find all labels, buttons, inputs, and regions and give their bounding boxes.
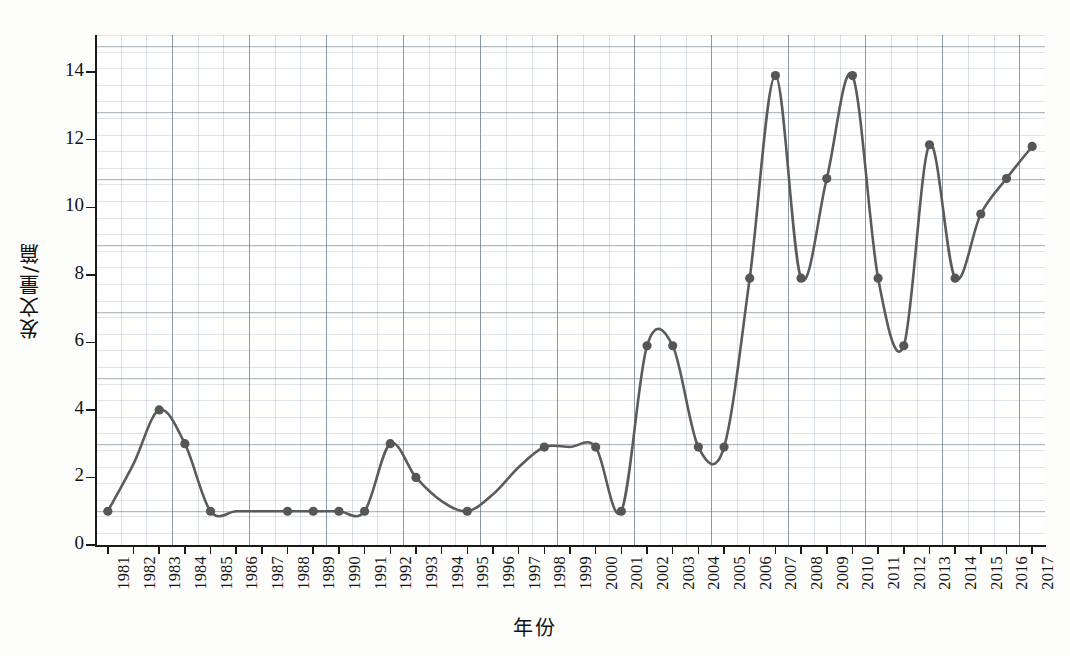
x-axis-tick [980,545,982,554]
x-axis-tick-label: 1984 [191,556,211,590]
x-axis-tick-label: 1998 [550,556,570,590]
data-point-marker [591,442,600,451]
x-axis-tick [518,545,520,554]
x-axis-tick-label: 1991 [371,556,391,590]
x-axis-tick [184,545,186,554]
x-axis-tick-label: 1997 [525,556,545,590]
x-axis-tick [390,545,392,554]
x-axis-tick [158,545,160,554]
y-axis-tick [86,342,96,344]
x-axis-tick [441,545,443,554]
y-axis-tick-label: 0 [0,532,84,554]
data-point-marker [976,209,985,218]
x-axis-tick [595,545,597,554]
x-axis-tick-label: 2012 [910,556,930,590]
y-axis-tick [86,139,96,141]
x-axis-tick-label: 2008 [807,556,827,590]
x-axis-tick-label: 1985 [217,556,237,590]
x-axis-tick-label: 2015 [987,556,1007,590]
y-axis-tick-label: 12 [0,127,84,149]
x-axis-tick [646,545,648,554]
y-axis-tick [86,71,96,73]
data-point-marker [719,442,728,451]
x-axis-tick [467,545,469,554]
x-axis-tick-label: 2001 [627,556,647,590]
x-axis-tick [749,545,751,554]
data-point-marker [360,507,369,516]
y-axis-tick-label: 10 [0,194,84,216]
x-axis-tick-label: 1993 [422,556,442,590]
x-axis-tick [235,545,237,554]
data-point-marker [694,442,703,451]
x-axis-tick-label: 2010 [858,556,878,590]
x-axis-tick-label: 2017 [1038,556,1058,590]
x-axis-tick-label: 2011 [884,556,904,589]
x-axis-tick [852,545,854,554]
data-point-marker [899,341,908,350]
data-point-marker [283,507,292,516]
x-axis-tick-label: 1986 [242,556,262,590]
x-axis-tick-label: 1994 [448,556,468,590]
y-axis-tick [86,544,96,546]
y-axis-tick [86,274,96,276]
plot-area [95,35,1045,545]
x-axis-tick [954,545,956,554]
data-point-marker [822,174,831,183]
x-axis-tick [492,545,494,554]
y-axis-tick [86,409,96,411]
x-axis-tick-label: 2014 [961,556,981,590]
y-axis-title: 发文量/篇 [14,0,44,580]
x-axis-tick [210,545,212,554]
x-axis-tick [1031,545,1033,554]
x-axis-tick-label: 1992 [396,556,416,590]
x-axis-tick [1006,545,1008,554]
x-axis-tick-label: 1996 [499,556,519,590]
x-axis-tick [544,545,546,554]
x-axis-tick [698,545,700,554]
data-point-marker [1028,142,1037,151]
data-point-marker [206,507,215,516]
chart-figure: 发文量/篇 02468101214 1981198219831984198519… [0,0,1070,656]
data-point-marker [1002,174,1011,183]
y-axis-line [95,35,97,547]
x-axis-tick [569,545,571,554]
y-axis-tick-label: 6 [0,329,84,351]
x-axis-tick-label: 2009 [833,556,853,590]
x-axis-tick-label: 1983 [165,556,185,590]
data-point-marker [180,439,189,448]
x-axis-tick [929,545,931,554]
x-axis-tick-label: 1990 [345,556,365,590]
x-axis-tick-label: 1999 [576,556,596,590]
data-point-marker [617,507,626,516]
data-point-marker [103,507,112,516]
y-axis-tick [86,207,96,209]
x-axis-tick [877,545,879,554]
x-axis-tick [621,545,623,554]
x-axis-tick [826,545,828,554]
data-point-marker [642,341,651,350]
x-axis-tick [107,545,109,554]
x-axis-tick-label: 2003 [679,556,699,590]
data-point-marker [309,507,318,516]
x-axis-tick [800,545,802,554]
y-axis-tick-label: 14 [0,59,84,81]
data-point-marker [411,473,420,482]
x-axis-tick [287,545,289,554]
data-point-marker [745,274,754,283]
x-axis-tick-label: 2004 [704,556,724,590]
x-axis-tick [775,545,777,554]
y-axis-tick-label: 4 [0,397,84,419]
data-point-marker [463,507,472,516]
x-axis-tick-label: 2006 [756,556,776,590]
x-axis-tick-label: 1987 [268,556,288,590]
data-point-marker [925,140,934,149]
data-point-marker [155,405,164,414]
x-axis-tick [723,545,725,554]
x-axis-tick-label: 1988 [294,556,314,590]
x-axis-tick-label: 2000 [602,556,622,590]
x-axis-tick-label: 1981 [114,556,134,590]
y-axis-tick-label: 8 [0,262,84,284]
x-axis-tick-label: 2016 [1012,556,1032,590]
x-axis-tick [338,545,340,554]
data-point-marker [771,71,780,80]
